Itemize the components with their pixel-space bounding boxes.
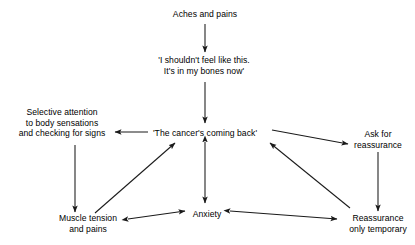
cycle-diagram: Aches and pains 'I shouldn't feel like t…: [0, 0, 415, 245]
node-text-line: and pains: [59, 224, 117, 235]
node-text-line: to body sensations: [19, 118, 106, 129]
node-text-line: It's in my bones now': [158, 66, 250, 77]
node-text-line: Muscle tension: [59, 213, 117, 224]
node-text-line: 'I shouldn't feel like this.: [158, 55, 250, 66]
node-ask-for-reassurance: Ask forreassurance: [354, 129, 402, 150]
node-text-line: reassurance: [354, 140, 402, 151]
node-text-line: Anxiety: [193, 209, 222, 220]
node-cancers-coming-back: 'The cancer's coming back': [153, 128, 257, 139]
node-text-line: Aches and pains: [173, 9, 237, 20]
node-text-line: Selective attention: [19, 107, 106, 118]
node-reassurance-only-temporary: Reassuranceonly temporary: [349, 213, 407, 234]
node-muscle-tension-and-pains: Muscle tensionand pains: [59, 213, 117, 234]
node-text-line: Reassurance: [349, 213, 407, 224]
arrow-anxiety-reassurance-temporary-bidirectional: [230, 211, 337, 219]
node-aches-and-pains: Aches and pains: [173, 9, 237, 20]
arrow-muscle-tension-anxiety-bidirectional: [128, 211, 185, 219]
node-anxiety: Anxiety: [193, 209, 222, 220]
arrow-reassurance-temporary-to-cancer: [270, 143, 350, 208]
node-text-line: Ask for: [354, 129, 402, 140]
node-shouldnt-feel-like-this: 'I shouldn't feel like this.It's in my b…: [158, 55, 250, 76]
node-selective-attention: Selective attentionto body sensationsand…: [19, 107, 106, 139]
arrow-muscle-tension-to-cancer: [95, 143, 175, 213]
node-text-line: only temporary: [349, 224, 407, 235]
arrow-cancer-to-ask-reassurance: [272, 130, 348, 144]
node-text-line: and checking for signs: [19, 128, 106, 139]
node-text-line: 'The cancer's coming back': [153, 128, 257, 139]
